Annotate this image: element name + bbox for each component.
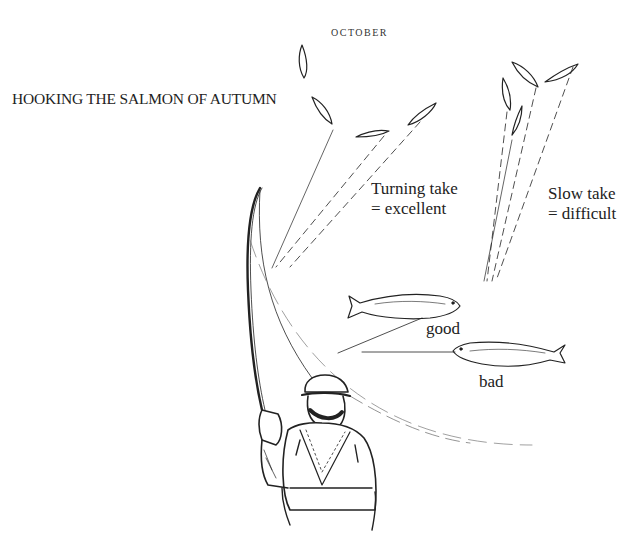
slow-take-line-1: Slow take (548, 184, 616, 204)
fish-icon (512, 62, 538, 87)
turning-take-note: Turning take = excellent (371, 179, 458, 219)
salmon-good (348, 295, 460, 319)
slow-take-fish-group (484, 62, 578, 281)
turning-take-line-1: Turning take (371, 179, 458, 199)
fish-icon (512, 106, 522, 135)
fishing-rod (248, 188, 266, 410)
figure-title: HOOKING THE SALMON OF AUTUMN (12, 90, 277, 108)
good-label: good (426, 319, 460, 339)
fish-icon (299, 45, 307, 78)
fish-icon (502, 78, 510, 110)
illustration-canvas: HOOKING THE SALMON OF AUTUMN OCTOBER Tur… (0, 0, 639, 536)
turning-take-fish-group (272, 45, 436, 268)
bad-label: bad (479, 372, 504, 392)
turning-take-line-2: = excellent (371, 199, 458, 219)
angler-figure (259, 375, 376, 530)
slow-take-note: Slow take = difficult (548, 184, 616, 224)
line-drawing (0, 0, 639, 536)
fish-icon (312, 97, 332, 124)
salmon-bad (453, 342, 565, 366)
month-label: OCTOBER (331, 27, 388, 38)
slow-take-line-2: = difficult (548, 204, 616, 224)
fish-icon (408, 103, 436, 125)
